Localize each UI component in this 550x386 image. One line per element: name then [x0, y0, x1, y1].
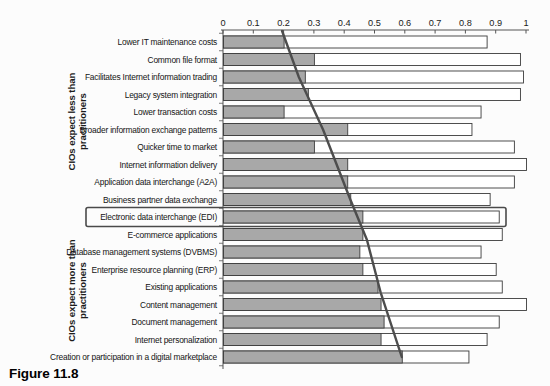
x-axis-tick-label: 0.7	[429, 18, 442, 28]
category-label: Broader information exchange patterns	[80, 125, 217, 135]
x-axis-tick-label: 0.5	[368, 18, 381, 28]
x-axis-tick-label: 0.9	[489, 18, 502, 28]
category-label: Document management	[131, 317, 217, 327]
bar-gray	[224, 54, 315, 66]
category-label: Internet personalization	[135, 335, 218, 345]
group-label-cios-expect-more: CIOs expect more than practitioners	[67, 201, 88, 381]
category-label: Facilitates Internet information trading	[85, 72, 218, 82]
category-label: Lower transaction costs	[134, 107, 217, 117]
category-label: E-commerce applications	[128, 230, 217, 240]
category-label: Lower IT maintenance costs	[118, 37, 217, 47]
group-label-cios-expect-less: CIOs expect less than practitioners	[67, 32, 88, 212]
category-label: Application data interchange (A2A)	[94, 177, 217, 187]
category-label: Enterprise resource planning (ERP)	[92, 265, 218, 275]
category-label: Existing applications	[145, 282, 217, 292]
bar-gray	[224, 334, 382, 346]
bar-gray	[224, 246, 360, 258]
category-label: Electronic data interchange (EDI)	[100, 212, 217, 222]
bar-gray	[224, 106, 285, 118]
bar-gray	[224, 89, 309, 101]
bar-gray	[224, 211, 363, 223]
bar-gray	[224, 36, 285, 48]
x-axis-tick-label: 0.3	[308, 18, 321, 28]
category-label: Quicker time to market	[137, 142, 218, 152]
bar-gray	[224, 194, 351, 206]
bar-gray	[224, 351, 403, 363]
figure-page: 00.10.20.30.40.50.60.70.80.91Lower IT ma…	[0, 0, 550, 386]
group-label-line: practitioners	[78, 32, 89, 212]
x-axis-tick-label: 1	[523, 18, 528, 28]
group-label-line: CIOs expect less than	[67, 32, 78, 212]
category-label: Legacy system integration	[125, 90, 218, 100]
figure-caption: Figure 11.8	[9, 366, 78, 381]
x-axis-tick-label: 0.1	[247, 18, 260, 28]
x-axis-tick-label: 0.8	[459, 18, 472, 28]
category-label: Database management systems (DVBMS)	[66, 247, 217, 257]
category-label: Internet information delivery	[119, 160, 218, 170]
x-axis-tick-label: 0.4	[338, 18, 351, 28]
group-label-line: CIOs expect more than	[67, 201, 78, 381]
bar-gray	[224, 124, 348, 136]
bar-gray	[224, 299, 382, 311]
x-axis-tick-label: 0	[220, 18, 225, 28]
bar-gray	[224, 71, 306, 83]
bar-gray	[224, 229, 363, 241]
group-label-line: practitioners	[78, 201, 89, 381]
category-label: Business partner data exchange	[103, 195, 218, 205]
bar-gray	[224, 176, 348, 188]
bar-gray	[224, 141, 315, 153]
x-axis-tick-label: 0.6	[398, 18, 411, 28]
bar-gray	[224, 264, 363, 276]
category-label: Common file format	[148, 55, 218, 65]
bar-gray	[224, 281, 379, 293]
x-axis-tick-label: 0.2	[277, 18, 290, 28]
bar-gray	[224, 159, 348, 171]
bar-gray	[224, 316, 385, 328]
category-label: Content management	[140, 300, 218, 310]
